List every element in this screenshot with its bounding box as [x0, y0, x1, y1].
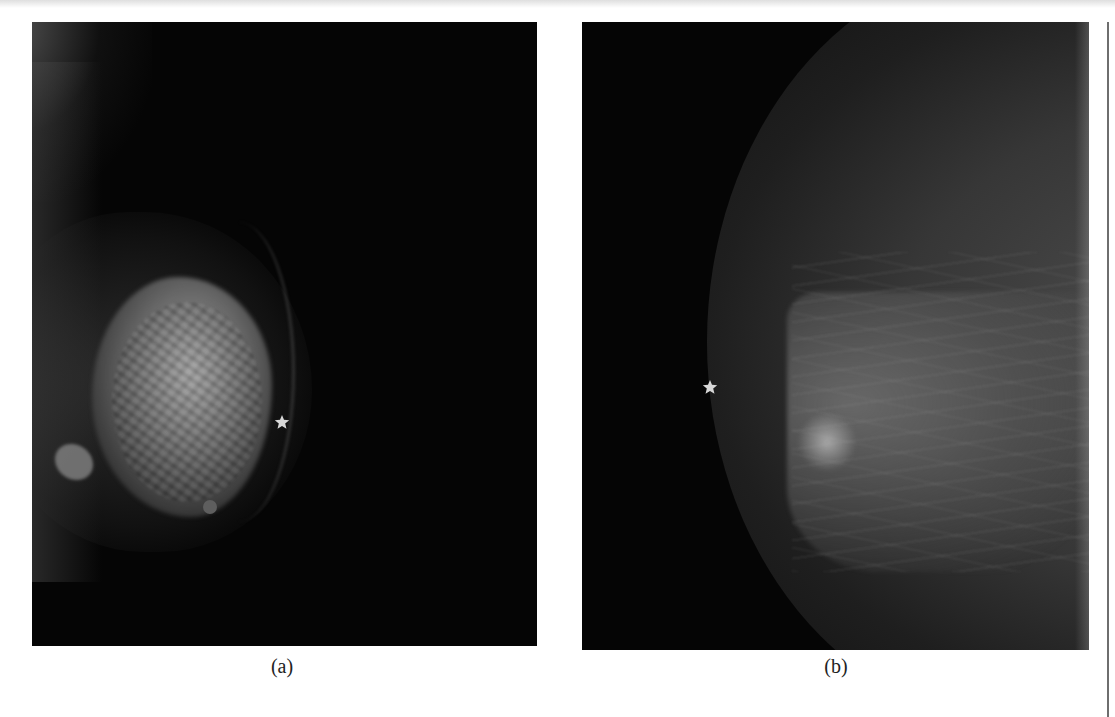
- panel-caption-a: (a): [252, 655, 312, 678]
- figure-panel-b: [582, 22, 1089, 650]
- figure-panel-a: [32, 22, 537, 646]
- star-marker-icon: [702, 379, 718, 395]
- panel-caption-b: (b): [806, 655, 866, 678]
- page-margin-rule: [1107, 22, 1109, 717]
- star-marker-icon: [274, 414, 290, 430]
- fibrous-strands: [792, 252, 1089, 572]
- edge-fade: [1075, 22, 1089, 650]
- skin-line: [182, 222, 295, 522]
- page-header-strip: [0, 0, 1115, 8]
- bright-density: [797, 412, 857, 472]
- round-marker-icon: [203, 500, 217, 514]
